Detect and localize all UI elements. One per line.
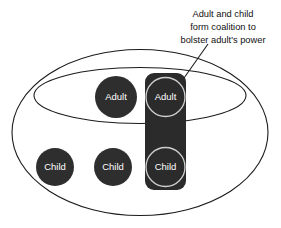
family-system-boundary-ellipse [12,50,268,216]
diagram-canvas: Adult Adult Child Child Child Adult and … [0,0,281,228]
child-coalition-label: Child [155,161,177,172]
adult-left-label: Adult [105,91,127,102]
annotation-line-1: Adult and child [193,9,254,19]
member-node-child-left: Child [36,148,74,186]
child-left-label: Child [44,161,66,172]
annotation-line-3: bolster adult's power [181,35,266,45]
child-middle-label: Child [102,161,124,172]
adult-coalition-label: Adult [155,91,177,102]
member-node-adult-coalition: Adult [146,78,185,117]
member-node-child-coalition: Child [146,148,185,187]
annotation-line-2: form coalition to [190,22,256,32]
structural-family-diagram: Adult Adult Child Child Child Adult and … [0,0,281,228]
member-node-adult-left: Adult [95,76,137,118]
member-node-child-middle: Child [94,148,132,186]
parental-subsystem-boundary-ellipse [34,68,246,124]
coalition-annotation: Adult and child form coalition to bolste… [181,9,266,45]
